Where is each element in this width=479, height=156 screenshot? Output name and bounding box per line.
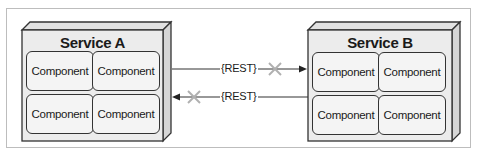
service-a-component-3: Component bbox=[26, 94, 94, 134]
service-b-component-1: Component bbox=[312, 52, 380, 92]
service-a-component-1: Component bbox=[26, 51, 94, 91]
service-b-component-2: Component bbox=[378, 52, 446, 92]
connection-label-a-to-b: {REST} bbox=[220, 62, 258, 74]
service-a-component-4: Component bbox=[92, 94, 160, 134]
service-b-title: Service B bbox=[308, 34, 452, 51]
service-b-component-3: Component bbox=[312, 95, 380, 135]
service-b-component-4: Component bbox=[378, 95, 446, 135]
connection-label-b-to-a: {REST} bbox=[220, 90, 258, 102]
service-a-title: Service A bbox=[22, 34, 163, 51]
service-a-component-2: Component bbox=[92, 51, 160, 91]
